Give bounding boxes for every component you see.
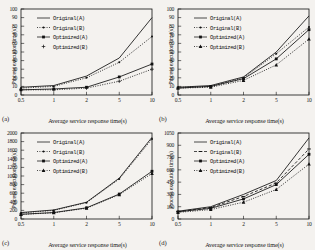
series-originala (21, 137, 152, 212)
y-tick-label: 80 (157, 23, 174, 29)
x-axis-label-a: Average service response time(s) (20, 117, 155, 124)
legend-d: Original(A)Original(B)Optimized(A)Optimi… (194, 140, 245, 175)
y-tick-label: 800 (0, 181, 17, 187)
legend-a: Original(A)Original(B)Optimized(A)Optimi… (37, 16, 88, 51)
y-tick-label: 50 (0, 49, 17, 55)
y-tick-label: 50 (157, 49, 174, 55)
y-tick-label: 400 (0, 199, 17, 205)
y-tick-label: 1200 (0, 164, 17, 170)
panel-tag-a: (a) (2, 115, 9, 122)
y-tick-label: 90 (157, 14, 174, 20)
y-tick-label: 20 (0, 75, 17, 81)
y-tick-label: 90 (0, 14, 17, 20)
y-tick-label: 900 (157, 142, 174, 148)
legend-label: Original(A) (210, 140, 242, 146)
legend-label: Optimized(A) (53, 35, 88, 41)
y-tick-label: 30 (0, 66, 17, 72)
y-tick-label: 60 (0, 40, 17, 46)
y-tick-label: 10 (0, 83, 17, 89)
chart-panel-c: Process execution time(s) Average servic… (0, 125, 157, 249)
x-axis-label-d: Average service response time(s) (177, 241, 312, 248)
y-tick-label: 1600 (0, 147, 17, 153)
series-optimizedb (19, 172, 154, 216)
legend-label: Optimized(B) (210, 45, 245, 51)
legend-label: Optimized(A) (210, 35, 245, 41)
y-tick-label: 600 (157, 167, 174, 173)
chart-panel-b: Process execution time(s) Average servic… (157, 1, 314, 125)
legend-label: Original(B) (53, 150, 85, 156)
y-tick-label: 30 (157, 66, 174, 72)
plot-area-b: Original(A)Original(B)Optimized(A)Optimi… (176, 7, 313, 101)
panel-tag-b: (b) (159, 115, 167, 122)
series-originala (178, 16, 309, 87)
legend-label: Optimized(B) (53, 45, 88, 51)
legend-label: Original(A) (53, 140, 85, 146)
legend-label: Original(B) (210, 26, 242, 32)
chart-panel-d: Process execution time(s) Average servic… (157, 125, 314, 249)
y-tick-label: 80 (0, 23, 17, 29)
legend-label: Original(A) (210, 16, 242, 22)
y-tick-label: 2000 (0, 130, 17, 136)
legend-label: Original(A) (53, 16, 85, 22)
y-tick-label: 70 (157, 32, 174, 38)
y-tick-label: 600 (0, 190, 17, 196)
y-tick-label: 60 (157, 40, 174, 46)
figure-canvas: Process execution time(s) Average servic… (0, 0, 315, 250)
x-axis-label-c: Average service response time(s) (20, 241, 155, 248)
y-tick-label: 450 (157, 179, 174, 185)
legend-label: Optimized(A) (210, 159, 245, 165)
legend-label: Optimized(A) (53, 159, 88, 165)
chart-panel-a: Process execution time(s) Average servic… (0, 1, 157, 125)
panel-tag-d: (d) (159, 239, 167, 246)
y-tick-label: 1050 (157, 130, 174, 136)
y-tick-label: 1000 (0, 173, 17, 179)
y-tick-label: 200 (0, 207, 17, 213)
y-tick-label: 150 (157, 204, 174, 210)
legend-b: Original(A)Original(B)Optimized(A)Optimi… (194, 16, 245, 51)
y-tick-label: 1400 (0, 156, 17, 162)
legend-label: Original(B) (210, 150, 242, 156)
y-tick-label: 100 (0, 6, 17, 12)
legend-label: Original(B) (53, 26, 85, 32)
y-tick-label: 100 (157, 6, 174, 12)
legend-c: Original(A)Original(B)Optimized(A)Optimi… (37, 140, 88, 175)
plot-area-d: Original(A)Original(B)Optimized(A)Optimi… (176, 131, 313, 225)
plot-area-a: Original(A)Original(B)Optimized(A)Optimi… (19, 7, 156, 101)
y-tick-label: 40 (157, 57, 174, 63)
series-originalb (20, 138, 153, 214)
legend-label: Optimized(B) (53, 169, 88, 175)
plot-area-c: Original(A)Original(B)Optimized(A)Optimi… (19, 131, 156, 225)
panel-tag-c: (c) (2, 239, 9, 246)
y-tick-label: 40 (0, 57, 17, 63)
y-tick-label: 750 (157, 154, 174, 160)
y-tick-label: 20 (157, 75, 174, 81)
y-tick-label: 300 (157, 191, 174, 197)
y-tick-label: 1800 (0, 138, 17, 144)
y-tick-label: 70 (0, 32, 17, 38)
x-axis-label-b: Average service response time(s) (177, 117, 312, 124)
legend-label: Optimized(B) (210, 169, 245, 175)
y-tick-label: 10 (157, 83, 174, 89)
